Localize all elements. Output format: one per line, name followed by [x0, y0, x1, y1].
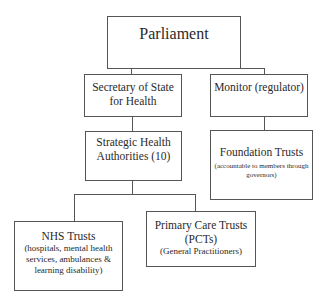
node-parliament: Parliament: [107, 16, 241, 69]
connector-branch-pct: [195, 194, 196, 211]
node-title: Monitor (regulator): [211, 80, 307, 94]
node-strategic-health-authorities: Strategic Health Authorities (10): [85, 131, 182, 181]
node-title: NHS Trusts: [15, 230, 122, 243]
connector-branch-nhs: [74, 194, 75, 221]
connector-secretary-strategic: [132, 116, 133, 131]
connector-strategic-down: [132, 180, 133, 194]
node-title: Parliament: [108, 25, 240, 43]
node-subtitle: (General Practitioners): [147, 246, 255, 257]
node-title: Secretary of State for Health: [85, 80, 181, 108]
node-monitor: Monitor (regulator): [210, 74, 308, 117]
connector-monitor-foundation: [264, 116, 265, 130]
node-subtitle: (hospitals, mental health services, ambu…: [15, 243, 122, 276]
node-nhs-trusts: NHS Trusts (hospitals, mental health ser…: [14, 221, 123, 291]
connector-strategic-branch: [74, 194, 196, 195]
node-primary-care-trusts: Primary Care Trusts (PCTs) (General Prac…: [146, 211, 256, 267]
node-subtitle: (accountable to members through governor…: [211, 162, 312, 180]
node-title: Foundation Trusts: [211, 145, 312, 159]
node-foundation-trusts: Foundation Trusts (accountable to member…: [210, 130, 313, 200]
node-title: Primary Care Trusts (PCTs): [147, 218, 255, 246]
node-secretary-of-state: Secretary of State for Health: [84, 74, 182, 117]
connector-parliament-monitor-h: [240, 68, 265, 69]
node-title: Strategic Health Authorities (10): [86, 135, 181, 163]
